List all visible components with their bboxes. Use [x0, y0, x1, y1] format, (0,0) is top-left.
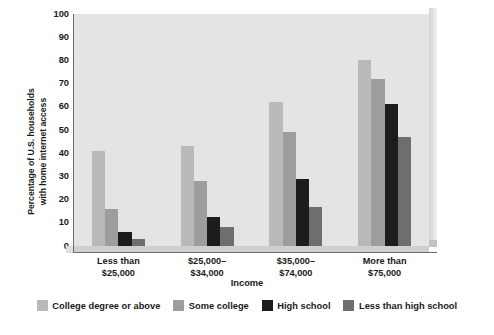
chart-legend: College degree or aboveSome collegeHigh …: [0, 300, 494, 311]
y-axis-tick-label: 80: [48, 56, 69, 65]
bar: [269, 102, 282, 246]
legend-item[interactable]: Less than high school: [343, 300, 457, 311]
y-axis-tick-label: 10: [48, 218, 69, 227]
legend-item[interactable]: Some college: [173, 300, 248, 311]
bar: [296, 179, 309, 246]
x-axis-tick-label: More than$75,000: [340, 256, 429, 279]
x-axis-tick-label-line: $25,000–: [163, 256, 252, 268]
bar: [105, 209, 118, 246]
x-axis-line: [73, 252, 437, 253]
bar: [309, 207, 322, 246]
x-axis-tick-label-line: More than: [340, 256, 429, 268]
y-axis-title-line-1: Percentage of U.S. households: [26, 47, 38, 257]
y-axis-tick-label: 40: [48, 149, 69, 158]
bar: [371, 79, 384, 246]
bar: [385, 104, 398, 246]
y-axis-tick-label: 60: [48, 102, 69, 111]
bar: [220, 227, 233, 246]
y-axis-title-line-2: with home internet access: [37, 47, 49, 257]
bar: [92, 151, 105, 246]
x-axis-title: Income: [0, 278, 494, 288]
bar: [358, 60, 371, 246]
x-axis-tick-label: $25,000–$34,000: [163, 256, 252, 279]
legend-swatch-icon: [173, 300, 184, 311]
y-axis-tick-label: 90: [48, 33, 69, 42]
x-axis-tick-label: $35,000–$74,000: [252, 256, 341, 279]
bar: [132, 239, 145, 246]
y-axis-title: Percentage of U.S. households with home …: [26, 47, 49, 257]
y-axis-tick-label: 20: [48, 195, 69, 204]
bar: [398, 137, 411, 246]
bar-series-container: [74, 14, 429, 246]
legend-swatch-icon: [37, 300, 48, 311]
y-axis-tick-label: 100: [48, 10, 69, 19]
legend-item[interactable]: College degree or above: [37, 300, 160, 311]
bar-chart-figure: Percentage of U.S. households with home …: [0, 0, 494, 335]
y-axis-tick-label: 70: [48, 79, 69, 88]
y-axis-line: [73, 14, 74, 253]
legend-swatch-icon: [262, 300, 273, 311]
plot-floor-side-face: [429, 240, 437, 247]
bar: [207, 217, 220, 246]
legend-label: High school: [277, 301, 330, 311]
x-axis-tick-label: Less than$25,000: [74, 256, 163, 279]
bar: [181, 146, 194, 246]
x-axis-tick-label-line: $35,000–: [252, 256, 341, 268]
y-axis-tick-labels: 1009080706050403020100: [48, 14, 69, 246]
legend-label: College degree or above: [52, 301, 160, 311]
legend-item[interactable]: High school: [262, 300, 331, 311]
bar: [283, 132, 296, 246]
bar: [194, 181, 207, 246]
x-axis-tick-label-line: Less than: [74, 256, 163, 268]
legend-label: Less than high school: [359, 301, 457, 311]
y-axis-tick-label: 50: [48, 126, 69, 135]
plot-depth-right-face: [429, 8, 437, 240]
bar: [118, 232, 131, 246]
legend-swatch-icon: [343, 300, 354, 311]
y-axis-tick-label: 30: [48, 172, 69, 181]
legend-label: Some college: [189, 301, 249, 311]
